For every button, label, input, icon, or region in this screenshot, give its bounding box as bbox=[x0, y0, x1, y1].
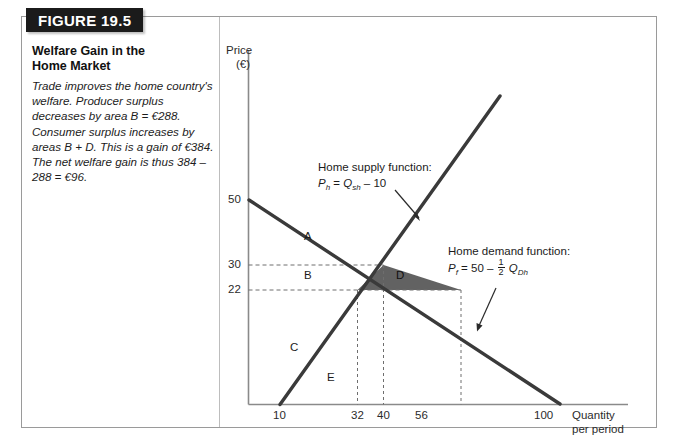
x-axis-label: Quantity per period bbox=[572, 409, 624, 436]
area-label-a: A bbox=[304, 230, 312, 242]
y-axis-label-line-2: (€) bbox=[236, 58, 250, 70]
supply-eq-operator: = bbox=[330, 177, 343, 189]
area-label-c: C bbox=[290, 341, 298, 353]
figure-title: Welfare Gain in the Home Market bbox=[32, 44, 214, 74]
supply-function-caption: Home supply function: bbox=[318, 161, 432, 173]
demand-function-annotation: Home demand function: Pf = 50 – 12 QDh bbox=[448, 243, 570, 281]
figure-container: FIGURE 19.5 Welfare Gain in the Home Mar… bbox=[0, 0, 673, 446]
caption-divider bbox=[219, 17, 220, 427]
area-label-e: E bbox=[327, 371, 335, 383]
demand-eq-rhs-var: Q bbox=[509, 262, 518, 274]
area-label-d: D bbox=[396, 269, 404, 281]
figure-number-banner: FIGURE 19.5 bbox=[26, 8, 143, 32]
y-tick-label-30: 30 bbox=[228, 258, 241, 270]
x-tick-label-56: 56 bbox=[415, 409, 428, 421]
figure-caption-block: Welfare Gain in the Home Market Trade im… bbox=[32, 44, 214, 184]
supply-function-equation: Ph = Qsh – 10 bbox=[318, 177, 386, 189]
supply-eq-rhs-sub: sh bbox=[352, 183, 360, 192]
x-tick-label-40: 40 bbox=[377, 409, 390, 421]
figure-caption-text: Trade improves the home country's welfar… bbox=[32, 78, 214, 184]
y-tick-label-22: 22 bbox=[228, 283, 241, 295]
demand-function-equation: Pf = 50 – 12 QDh bbox=[448, 262, 528, 274]
supply-eq-rhs-var: Q bbox=[343, 177, 352, 189]
x-tick-label-10: 10 bbox=[273, 409, 286, 421]
x-axis-label-line-1: Quantity bbox=[572, 409, 615, 421]
supply-eq-lhs: P bbox=[318, 177, 326, 189]
supply-eq-constant: – 10 bbox=[361, 177, 387, 189]
demand-eq-lhs: P bbox=[448, 262, 456, 274]
x-axis-label-line-2: per period bbox=[572, 423, 624, 435]
demand-eq-rhs-sub: Dh bbox=[518, 268, 528, 277]
figure-title-line-2: Home Market bbox=[32, 59, 111, 73]
demand-eq-fraction-denominator: 2 bbox=[498, 268, 505, 277]
demand-function-caption: Home demand function: bbox=[448, 245, 570, 257]
supply-function-annotation: Home supply function: Ph = Qsh – 10 bbox=[318, 159, 432, 196]
x-tick-label-100: 100 bbox=[534, 409, 553, 421]
demand-eq-fraction: 12 bbox=[498, 258, 505, 277]
y-tick-label-50: 50 bbox=[228, 193, 241, 205]
demand-eq-operator: = 50 – bbox=[458, 262, 497, 274]
area-label-b: B bbox=[304, 269, 312, 281]
y-axis-label-line-1: Price bbox=[226, 44, 252, 56]
figure-title-line-1: Welfare Gain in the bbox=[32, 44, 145, 58]
figure-number-label: FIGURE 19.5 bbox=[38, 12, 131, 29]
x-tick-label-32: 32 bbox=[351, 409, 364, 421]
